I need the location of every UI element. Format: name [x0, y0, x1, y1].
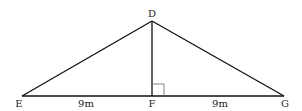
label-E: E — [15, 98, 22, 109]
label-D: D — [148, 8, 156, 19]
triangle-diagram: D E F G 9m 9m — [0, 0, 302, 111]
measure-FG: 9m — [212, 98, 228, 109]
measure-EF: 9m — [78, 98, 94, 109]
segment-DE — [22, 21, 152, 96]
right-angle-marker — [153, 84, 164, 96]
label-F: F — [149, 98, 156, 109]
label-G: G — [281, 98, 289, 109]
segment-DG — [152, 21, 284, 96]
